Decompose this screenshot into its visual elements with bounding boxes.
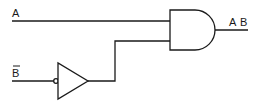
buffer-output-wire: [88, 41, 170, 81]
input-a-label: A: [12, 7, 20, 19]
output-label-a: A: [229, 16, 237, 28]
logic-diagram: A B A B: [0, 0, 259, 108]
input-b-label: B: [12, 67, 19, 79]
circuit-svg: A B A B: [0, 0, 259, 108]
buffer-gate-icon: [58, 63, 88, 99]
and-gate-icon: [170, 10, 215, 50]
output-label-b: B: [240, 16, 247, 28]
